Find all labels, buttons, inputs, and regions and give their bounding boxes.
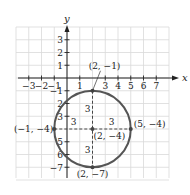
- circle: [52, 89, 133, 170]
- x-tick-label: 5: [128, 81, 134, 91]
- y-tick-label: 2: [57, 48, 63, 58]
- x-tick-label: 3: [102, 81, 108, 91]
- y-axis-arrow-icon: [65, 25, 70, 32]
- y-tick-label: 3: [57, 35, 63, 45]
- point-label-center: (2, −4): [94, 131, 126, 141]
- x-axis-label: x: [182, 72, 188, 83]
- y-tick-label: −1: [50, 86, 63, 96]
- x-axis-arrow-icon: [172, 76, 179, 81]
- x-tick-label: 1: [77, 81, 83, 91]
- x-tick-label: −2: [35, 81, 48, 91]
- radius-label-down: 3: [85, 145, 91, 155]
- axes: xy−3−2−1134567321−12356−7: [18, 13, 188, 178]
- radius-label-up: 3: [85, 104, 91, 114]
- x-tick-label: 4: [115, 81, 121, 91]
- point-marker: [129, 127, 133, 131]
- x-tick-label: −3: [22, 81, 36, 91]
- labels: 3333(2, −1)(−1, −4)(2, −4)(5, −4)(2, −7): [14, 61, 166, 180]
- point-label-left: (−1, −4): [14, 124, 53, 134]
- coordinate-plane: xy−3−2−1134567321−12356−7 3333(2, −1)(−1…: [0, 0, 190, 195]
- x-tick-label: 7: [153, 81, 159, 91]
- leader-line: [93, 71, 101, 91]
- y-tick-label: −7: [50, 163, 64, 173]
- radius-label-right: 3: [109, 117, 115, 127]
- point-label-top: (2, −1): [89, 61, 121, 71]
- y-tick-label: 1: [57, 61, 63, 71]
- y-axis-label: y: [63, 13, 70, 24]
- x-tick-label: 6: [141, 81, 147, 91]
- point-label-bottom: (2, −7): [77, 169, 109, 179]
- radius-label-left: 3: [71, 117, 77, 127]
- point-label-right: (5, −4): [134, 119, 166, 129]
